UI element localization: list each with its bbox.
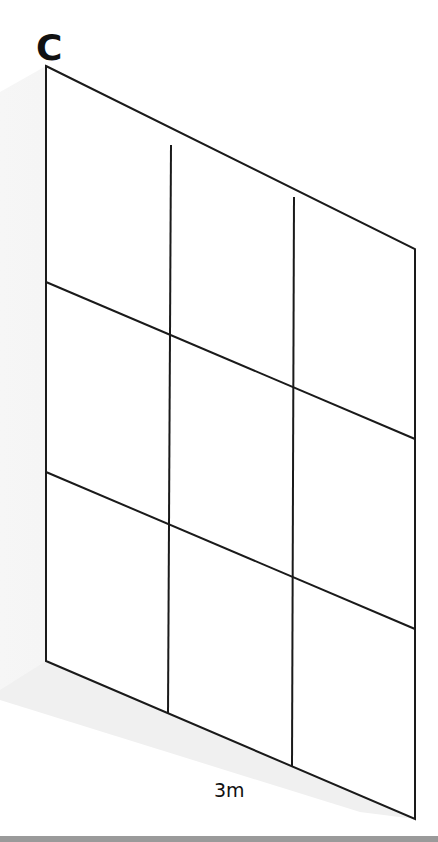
- bottom-bar: [0, 836, 438, 842]
- panel-label: C: [36, 28, 62, 68]
- dimension-label: 3m: [214, 778, 245, 802]
- perspective-grid-diagram: [0, 0, 438, 842]
